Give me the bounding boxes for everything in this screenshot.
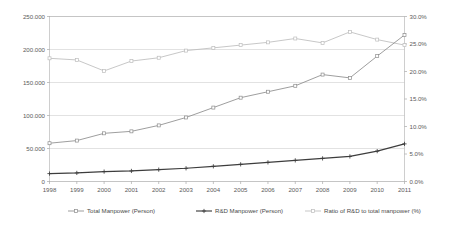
series-marker-1 bbox=[75, 139, 78, 142]
y-axis-left-tick-label: 150.000 bbox=[23, 79, 46, 86]
series-1 bbox=[48, 33, 406, 144]
legend-sample-marker-3 bbox=[312, 210, 315, 213]
x-axis-tick-label: 2011 bbox=[398, 186, 412, 193]
y-axis-left-tick-label: 200.000 bbox=[23, 46, 46, 53]
series-3 bbox=[48, 30, 406, 72]
series-marker-3 bbox=[321, 41, 324, 44]
series-marker-3 bbox=[48, 57, 51, 60]
series-2 bbox=[47, 142, 406, 176]
x-axis-tick-label: 2004 bbox=[207, 186, 221, 193]
y-axis-right-tick-label: 25.0% bbox=[410, 40, 428, 47]
series-marker-1 bbox=[185, 116, 188, 119]
x-axis-tick-label: 2003 bbox=[179, 186, 193, 193]
y-axis-left-tick-label: 100.000 bbox=[23, 112, 46, 119]
y-axis-right-tick-label: 20.0% bbox=[410, 68, 428, 75]
chart-container: 050.000100.000150.000200.000250.0000.0%5… bbox=[0, 0, 460, 226]
y-axis-left-tick-label: 250.000 bbox=[23, 13, 46, 20]
series-marker-3 bbox=[294, 37, 297, 40]
series-marker-3 bbox=[157, 56, 160, 59]
y-axis-right-tick-label: 15.0% bbox=[410, 95, 428, 102]
x-axis-tick-label: 2000 bbox=[97, 186, 111, 193]
y-axis-left-tick-label: 0 bbox=[42, 178, 46, 185]
y-axis-left: 050.000100.000150.000200.000250.000 bbox=[23, 13, 50, 185]
series-marker-1 bbox=[157, 124, 160, 127]
x-axis-tick-label: 2010 bbox=[370, 186, 384, 193]
line-chart: 050.000100.000150.000200.000250.0000.0%5… bbox=[0, 0, 460, 226]
x-axis-tick-label: 1998 bbox=[43, 186, 57, 193]
y-axis-right-tick-label: 30.0% bbox=[410, 13, 428, 20]
legend-label-2: R&D Manpower (Person) bbox=[215, 207, 283, 214]
y-axis-right-tick-label: 5.0% bbox=[410, 150, 424, 157]
series-marker-1 bbox=[130, 130, 133, 133]
x-axis-tick-label: 1999 bbox=[70, 186, 84, 193]
series-marker-1 bbox=[48, 142, 51, 145]
legend-label-3: Ratio of R&D to total manpower (%) bbox=[324, 207, 421, 214]
series-marker-1 bbox=[376, 55, 379, 58]
series-line-3 bbox=[50, 32, 405, 71]
x-axis-tick-label: 2001 bbox=[125, 186, 139, 193]
series-marker-3 bbox=[75, 58, 78, 61]
series-marker-1 bbox=[294, 84, 297, 87]
series-marker-3 bbox=[239, 44, 242, 47]
series-marker-3 bbox=[348, 30, 351, 33]
x-axis-tick-label: 2008 bbox=[316, 186, 330, 193]
series-marker-1 bbox=[212, 106, 215, 109]
series-line-1 bbox=[50, 35, 405, 143]
series-marker-1 bbox=[266, 90, 269, 93]
series-marker-3 bbox=[130, 60, 133, 63]
x-axis-tick-label: 2002 bbox=[152, 186, 166, 193]
x-axis: 1998199920002001200220032004200520062007… bbox=[43, 182, 412, 194]
y-axis-right-tick-label: 0.0% bbox=[410, 178, 424, 185]
series-marker-3 bbox=[403, 44, 406, 47]
legend: Total Manpower (Person)R&D Manpower (Per… bbox=[68, 207, 421, 214]
series-marker-3 bbox=[212, 46, 215, 49]
series-marker-3 bbox=[103, 69, 106, 72]
x-axis-tick-label: 2009 bbox=[343, 186, 357, 193]
legend-label-1: Total Manpower (Person) bbox=[87, 207, 155, 214]
series-marker-1 bbox=[103, 132, 106, 135]
series-marker-1 bbox=[403, 33, 406, 36]
series-marker-3 bbox=[376, 38, 379, 41]
series-marker-1 bbox=[321, 73, 324, 76]
series-marker-3 bbox=[185, 49, 188, 52]
y-axis-left-tick-label: 50.000 bbox=[26, 145, 45, 152]
series-marker-1 bbox=[239, 96, 242, 99]
x-axis-tick-label: 2005 bbox=[234, 186, 248, 193]
y-axis-right: 0.0%5.0%10.0%15.0%20.0%25.0%30.0% bbox=[405, 13, 428, 185]
y-axis-right-tick-label: 10.0% bbox=[410, 123, 428, 130]
x-axis-tick-label: 2007 bbox=[288, 186, 302, 193]
x-axis-tick-label: 2006 bbox=[261, 186, 275, 193]
series-marker-1 bbox=[348, 76, 351, 79]
legend-sample-marker-1 bbox=[75, 210, 78, 213]
series-marker-3 bbox=[266, 41, 269, 44]
